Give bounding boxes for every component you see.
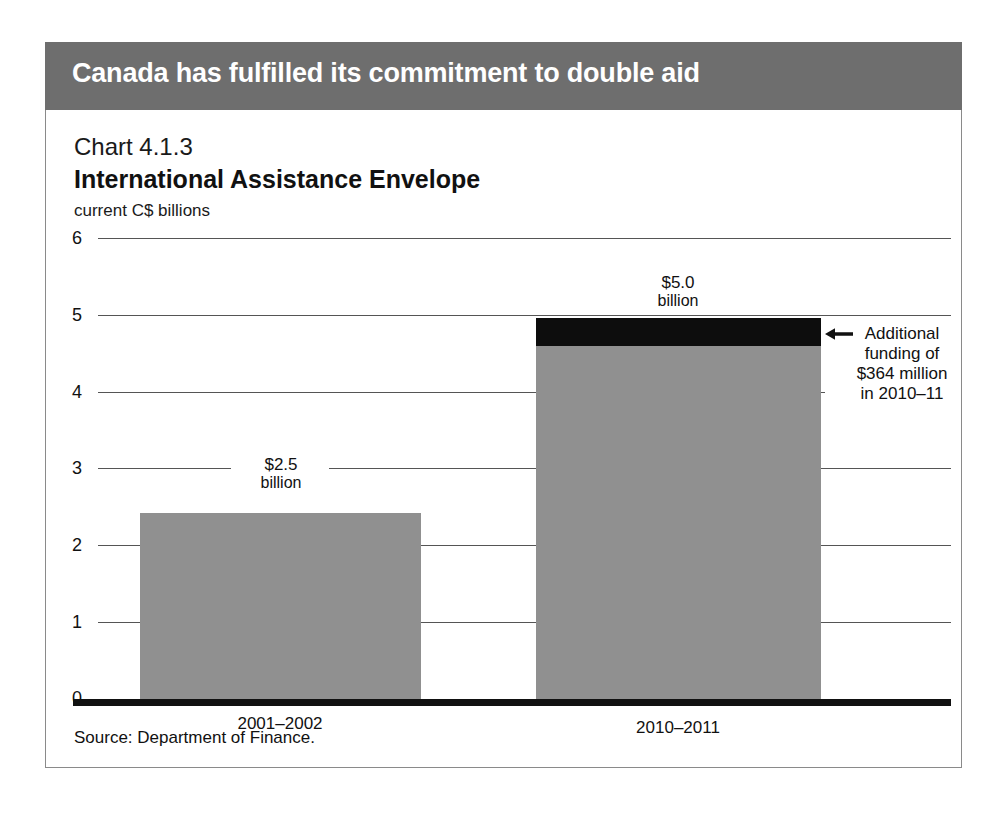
bar-2001-2002-value-label: $2.5 billion — [211, 455, 351, 492]
annotation-additional-funding: Additional funding of $364 million in 20… — [852, 324, 952, 404]
y-tick-label-4: 4 — [60, 382, 82, 403]
gridline-5 — [98, 315, 951, 316]
bar-2001-2002-value-unit: billion — [211, 474, 351, 492]
bar-2001-2002-value-amount: $2.5 — [211, 455, 351, 474]
y-tick-label-2: 2 — [60, 535, 82, 556]
x-category-label-2010-2011: 2010–2011 — [608, 718, 748, 738]
banner: Canada has fulfilled its commitment to d… — [45, 42, 962, 110]
bar-2010-2011-value-amount: $5.0 — [608, 273, 748, 292]
annotation-line-3: $364 million — [852, 364, 952, 384]
bar-2010-2011-value-unit: billion — [608, 292, 748, 310]
y-tick-label-6: 6 — [60, 228, 82, 249]
figure-body: Chart 4.1.3 International Assistance Env… — [45, 110, 962, 768]
source-note: Source: Department of Finance. — [74, 728, 315, 748]
left-arrow-icon — [824, 325, 854, 343]
annotation-line-4: in 2010–11 — [852, 384, 952, 404]
gridline-6 — [98, 238, 951, 239]
banner-title: Canada has fulfilled its commitment to d… — [72, 58, 700, 89]
chart-figure: Canada has fulfilled its commitment to d… — [45, 42, 962, 768]
x-axis-baseline — [73, 699, 951, 706]
bar-2010-2011-additional — [536, 318, 821, 346]
plot-area: 6 5 4 3 2 1 0 $2.5 billion $5.0 billion — [46, 110, 963, 768]
gridline-4 — [98, 392, 951, 393]
y-tick-label-1: 1 — [60, 612, 82, 633]
bar-2010-2011-base — [536, 346, 821, 699]
y-tick-label-5: 5 — [60, 305, 82, 326]
bar-2010-2011-value-label: $5.0 billion — [608, 273, 748, 310]
bar-2001-2002-base — [140, 513, 421, 699]
annotation-line-1: Additional — [852, 324, 952, 344]
y-tick-label-3: 3 — [60, 458, 82, 479]
annotation-line-2: funding of — [852, 344, 952, 364]
